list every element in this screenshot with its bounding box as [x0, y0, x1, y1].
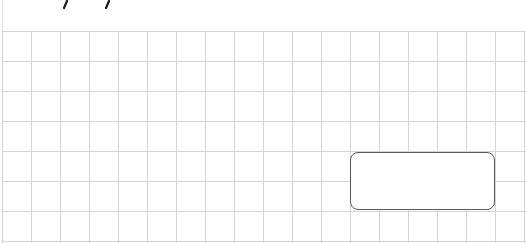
handwritten-stroke-2 [106, 1, 109, 8]
grid-area [2, 31, 526, 243]
answer-box[interactable] [350, 152, 495, 210]
handwritten-stroke-1 [64, 1, 67, 8]
grid-worksheet [0, 0, 526, 243]
top-handwritten-marks [0, 0, 526, 14]
